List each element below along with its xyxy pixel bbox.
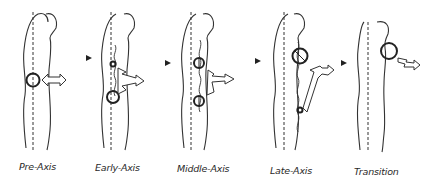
arrow-icon [398, 58, 420, 70]
figure-early-axis [101, 12, 144, 150]
figure-transition [357, 22, 420, 152]
stage-label-late-axis: Late-Axis [270, 165, 312, 176]
ring-icon [381, 43, 397, 59]
branch-arrow-icon [207, 70, 234, 95]
stage-label-middle-axis: Middle-Axis [177, 163, 229, 174]
figure-late-axis [273, 12, 334, 150]
stage-label-pre-axis: Pre-Axis [19, 161, 56, 172]
double-arrow-icon [42, 74, 66, 86]
ring-icon [107, 91, 119, 103]
stage-label-transition: Transition [354, 166, 399, 177]
stage-label-early-axis: Early-Axis [95, 162, 140, 173]
small-ring-icon [298, 108, 303, 113]
branch-arrow-icon [303, 65, 334, 112]
figure-pre-axis [23, 12, 66, 150]
step-arrow-icon [86, 55, 92, 61]
figure-middle-axis [181, 12, 234, 150]
step-arrow-icon [165, 60, 171, 66]
step-arrow-icon [255, 58, 261, 64]
branch-arrow-icon [118, 68, 144, 94]
stage-diagram [0, 0, 446, 182]
small-ring-icon [111, 62, 116, 67]
step-arrow-icon [341, 60, 347, 66]
